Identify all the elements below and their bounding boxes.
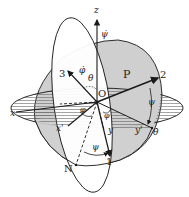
label-x: x — [10, 109, 15, 118]
label-x-prime: x' — [56, 124, 64, 133]
label-1: 1 — [106, 157, 112, 167]
label-phi-left: φ — [80, 106, 86, 114]
label-phi-right: φ — [104, 112, 110, 120]
label-y-prime: y' — [135, 126, 143, 135]
node-n-point — [75, 164, 77, 166]
label-theta: θ — [88, 74, 93, 83]
label-psi-bottom: ψ — [92, 143, 99, 152]
label-3: 3 — [59, 69, 65, 79]
label-2: 2 — [160, 70, 166, 80]
label-theta-dot: θ̇ — [153, 128, 158, 137]
label-psi-right: ψ — [148, 98, 155, 107]
label-n: N — [64, 164, 73, 174]
label-psi-dot: ψ̇ — [101, 30, 108, 39]
diagram-graphics — [0, 0, 189, 197]
euler-angle-diagram: z ψ̇ φ̇ θ 3 P 2 O ψ x φ φ x' y y' θ̇ ψ 1… — [0, 0, 189, 197]
label-p: P — [123, 69, 130, 80]
label-phi-dot: φ̇ — [79, 66, 85, 75]
label-o: O — [98, 89, 106, 99]
label-y: y — [108, 126, 113, 135]
origin-point — [96, 101, 99, 104]
label-z: z — [94, 6, 99, 15]
